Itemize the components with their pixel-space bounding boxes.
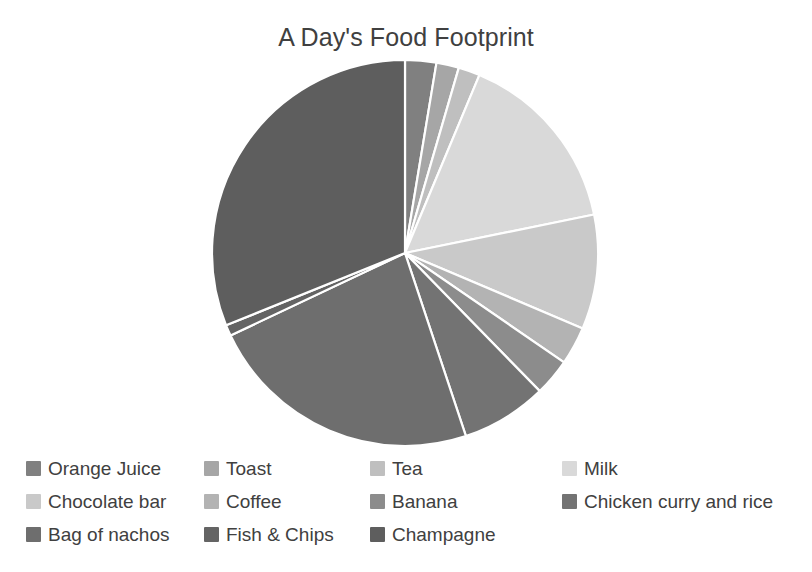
legend-swatch-icon — [26, 494, 41, 509]
legend-item[interactable]: Milk — [562, 458, 794, 480]
chart-title: A Day's Food Footprint — [0, 22, 812, 52]
legend-swatch-icon — [26, 527, 41, 542]
legend-swatch-icon — [370, 461, 385, 476]
legend-item-label: Tea — [392, 458, 423, 480]
legend-swatch-icon — [204, 461, 219, 476]
legend-swatch-icon — [370, 494, 385, 509]
legend-swatch-icon — [26, 461, 41, 476]
legend-item[interactable]: Coffee — [204, 491, 370, 513]
pie-plot-area — [211, 59, 599, 447]
legend-item-label: Champagne — [392, 524, 496, 546]
legend-swatch-icon — [204, 527, 219, 542]
legend-item[interactable]: Fish & Chips — [204, 524, 370, 546]
legend-swatch-icon — [562, 461, 577, 476]
pie-svg — [211, 59, 599, 447]
legend-item[interactable]: Chicken curry and rice — [562, 491, 794, 513]
chart-legend: Orange JuiceToastTeaMilkChocolate barCof… — [26, 452, 796, 551]
legend-item-label: Coffee — [226, 491, 282, 513]
legend-item-label: Toast — [226, 458, 271, 480]
pie-slice-group — [212, 60, 598, 446]
legend-swatch-icon — [562, 494, 577, 509]
legend-item-label: Chicken curry and rice — [584, 491, 773, 513]
legend-item[interactable]: Chocolate bar — [26, 491, 204, 513]
legend-item[interactable]: Tea — [370, 458, 562, 480]
legend-swatch-icon — [204, 494, 219, 509]
legend-item[interactable]: Banana — [370, 491, 562, 513]
legend-item-label: Bag of nachos — [48, 524, 169, 546]
legend-item[interactable]: Toast — [204, 458, 370, 480]
pie-chart-figure: A Day's Food Footprint Orange JuiceToast… — [0, 0, 812, 572]
legend-item-label: Orange Juice — [48, 458, 161, 480]
legend-item-label: Milk — [584, 458, 618, 480]
legend-item-label: Banana — [392, 491, 458, 513]
legend-item[interactable]: Champagne — [370, 524, 562, 546]
legend-item[interactable]: Bag of nachos — [26, 524, 204, 546]
legend-item-label: Fish & Chips — [226, 524, 334, 546]
legend-item[interactable]: Orange Juice — [26, 458, 204, 480]
legend-swatch-icon — [370, 527, 385, 542]
legend-item-label: Chocolate bar — [48, 491, 166, 513]
